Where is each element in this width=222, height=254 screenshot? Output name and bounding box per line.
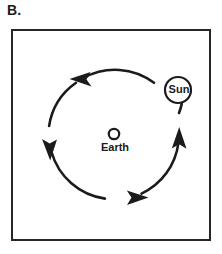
orbit-arc-sun-stub — [179, 104, 182, 113]
orbit-arc-bottom-to-right — [142, 143, 179, 194]
sun-label: Sun — [163, 83, 195, 95]
earth-circle — [109, 129, 119, 139]
orbit-arc-top-to-left — [49, 83, 76, 126]
diagram-frame: Sun Earth — [11, 29, 211, 241]
orbit-arc-sun-to-top — [84, 70, 155, 83]
orbit-diagram-svg — [13, 31, 213, 243]
earth-label: Earth — [93, 141, 137, 153]
orbit-arc-left-to-bottom — [52, 152, 106, 199]
figure-root: B. — [0, 0, 222, 254]
panel-letter-label: B. — [7, 2, 21, 18]
arrow-left-head — [42, 139, 57, 161]
earth-body — [109, 129, 119, 139]
